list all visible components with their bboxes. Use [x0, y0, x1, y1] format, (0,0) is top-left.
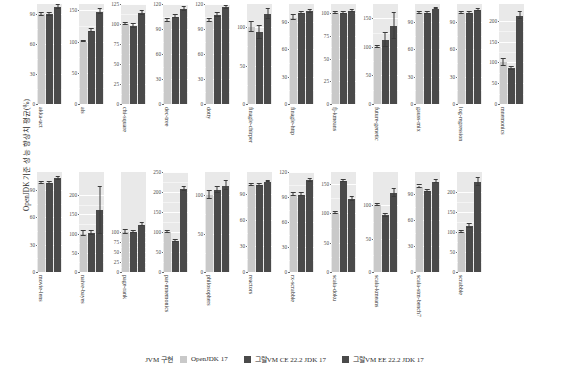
bar-OpenJDK 17[interactable]	[38, 4, 45, 104]
bar-rect	[382, 40, 389, 104]
bar-그랄VM CE 22.2 JDK 17[interactable]	[256, 172, 263, 272]
x-axis-label: log-regression	[440, 107, 482, 165]
bar-그랄VM EE 22.2 JDK 17[interactable]	[432, 4, 439, 104]
bar-그랄VM CE 22.2 JDK 17[interactable]	[298, 172, 305, 272]
bar-OpenJDK 17[interactable]	[80, 172, 87, 272]
x-axis-label-text: akka-uct	[38, 107, 44, 128]
bar-그랄VM CE 22.2 JDK 17[interactable]	[256, 4, 263, 104]
bar-그랄VM CE 22.2 JDK 17[interactable]	[130, 172, 137, 272]
y-axis: 0306090	[272, 4, 289, 104]
bar-그랄VM EE 22.2 JDK 17[interactable]	[96, 4, 103, 104]
bar-그랄VM EE 22.2 JDK 17[interactable]	[54, 4, 61, 104]
bar-그랄VM CE 22.2 JDK 17[interactable]	[340, 172, 347, 272]
bar-그랄VM EE 22.2 JDK 17[interactable]	[474, 4, 481, 104]
x-axis-label: finagle-chirper	[230, 107, 272, 165]
bar-OpenJDK 17[interactable]	[248, 4, 255, 104]
bar-그랄VM EE 22.2 JDK 17[interactable]	[180, 172, 187, 272]
error-bar-cap	[173, 14, 178, 15]
bar-OpenJDK 17[interactable]	[206, 4, 213, 104]
bar-그랄VM CE 22.2 JDK 17[interactable]	[508, 4, 515, 104]
bar-그랄VM CE 22.2 JDK 17[interactable]	[424, 4, 431, 104]
bar-OpenJDK 17[interactable]	[164, 4, 171, 104]
bar-OpenJDK 17[interactable]	[38, 172, 45, 272]
bar-그랄VM CE 22.2 JDK 17[interactable]	[88, 172, 95, 272]
bar-그랄VM EE 22.2 JDK 17[interactable]	[264, 172, 271, 272]
bar-그랄VM EE 22.2 JDK 17[interactable]	[222, 172, 229, 272]
bar-그랄VM CE 22.2 JDK 17[interactable]	[466, 172, 473, 272]
bar-OpenJDK 17[interactable]	[332, 172, 339, 272]
bar-그랄VM EE 22.2 JDK 17[interactable]	[138, 4, 145, 104]
bar-그랄VM CE 22.2 JDK 17[interactable]	[172, 4, 179, 104]
error-bar-cap	[459, 11, 464, 12]
bar-그랄VM EE 22.2 JDK 17[interactable]	[222, 4, 229, 104]
bar-그랄VM EE 22.2 JDK 17[interactable]	[474, 172, 481, 272]
bar-그랄VM EE 22.2 JDK 17[interactable]	[390, 172, 397, 272]
y-tick-label: 100	[195, 192, 203, 198]
bar-rect	[432, 9, 439, 104]
error-bar-cap	[299, 13, 304, 14]
bar-group	[373, 172, 398, 272]
y-tick-label: 50	[198, 231, 203, 237]
facet-par-mnemonics: 050100150200250par-mnemonics	[146, 172, 188, 333]
error-bar-cap	[307, 181, 312, 182]
error-bar-cap	[139, 14, 144, 15]
bar-OpenJDK 17[interactable]	[416, 4, 423, 104]
bar-그랄VM CE 22.2 JDK 17[interactable]	[88, 4, 95, 104]
error-bar-cap	[139, 225, 144, 226]
bar-그랄VM EE 22.2 JDK 17[interactable]	[264, 4, 271, 104]
bar-OpenJDK 17[interactable]	[458, 172, 465, 272]
legend-item-graalvm-ee[interactable]: 그랄VM EE 22.2 JDK 17	[342, 354, 424, 364]
bar-그랄VM EE 22.2 JDK 17[interactable]	[96, 172, 103, 272]
bar-OpenJDK 17[interactable]	[206, 172, 213, 272]
bar-OpenJDK 17[interactable]	[248, 172, 255, 272]
bar-그랄VM EE 22.2 JDK 17[interactable]	[432, 172, 439, 272]
bar-OpenJDK 17[interactable]	[80, 4, 87, 104]
bar-OpenJDK 17[interactable]	[290, 172, 297, 272]
legend-item-openjdk[interactable]: OpenJDK 17	[180, 355, 228, 363]
y-tick-label: 90	[156, 26, 161, 32]
bar-OpenJDK 17[interactable]	[374, 4, 381, 104]
bar-그랄VM EE 22.2 JDK 17[interactable]	[54, 172, 61, 272]
error-bar-cap	[257, 185, 262, 186]
x-axis-label: page-rank	[104, 275, 146, 333]
bar-rect	[306, 11, 313, 104]
bar-그랄VM CE 22.2 JDK 17[interactable]	[382, 4, 389, 104]
bar-OpenJDK 17[interactable]	[122, 172, 129, 272]
bar-그랄VM CE 22.2 JDK 17[interactable]	[46, 4, 53, 104]
plot-area: 050100150200	[482, 4, 524, 104]
bar-그랄VM CE 22.2 JDK 17[interactable]	[340, 4, 347, 104]
bar-그랄VM EE 22.2 JDK 17[interactable]	[348, 4, 355, 104]
bar-그랄VM EE 22.2 JDK 17[interactable]	[348, 172, 355, 272]
plot-area: 050100	[356, 172, 398, 272]
y-axis: 0306090	[20, 172, 37, 272]
bar-OpenJDK 17[interactable]	[416, 172, 423, 272]
bar-그랄VM EE 22.2 JDK 17[interactable]	[516, 4, 523, 104]
bar-OpenJDK 17[interactable]	[164, 172, 171, 272]
bar-그랄VM CE 22.2 JDK 17[interactable]	[298, 4, 305, 104]
bar-그랄VM CE 22.2 JDK 17[interactable]	[46, 172, 53, 272]
legend-item-graalvm-ce[interactable]: 그랄VM CE 22.2 JDK 17	[244, 354, 326, 364]
bar-OpenJDK 17[interactable]	[500, 4, 507, 104]
bar-rect	[206, 195, 213, 272]
facet-movie-lens: 0306090movie-lens	[20, 172, 62, 333]
bar-그랄VM EE 22.2 JDK 17[interactable]	[390, 4, 397, 104]
bar-그랄VM EE 22.2 JDK 17[interactable]	[138, 172, 145, 272]
bar-그랄VM CE 22.2 JDK 17[interactable]	[382, 172, 389, 272]
bar-그랄VM CE 22.2 JDK 17[interactable]	[130, 4, 137, 104]
bar-그랄VM EE 22.2 JDK 17[interactable]	[306, 4, 313, 104]
bar-OpenJDK 17[interactable]	[458, 4, 465, 104]
bar-그랄VM CE 22.2 JDK 17[interactable]	[214, 4, 221, 104]
bar-그랄VM EE 22.2 JDK 17[interactable]	[180, 4, 187, 104]
bar-OpenJDK 17[interactable]	[290, 4, 297, 104]
error-bar-cap	[459, 230, 464, 231]
bar-rect	[130, 26, 137, 104]
facet-als: 050100150als	[62, 4, 104, 165]
bar-그랄VM CE 22.2 JDK 17[interactable]	[466, 4, 473, 104]
bar-OpenJDK 17[interactable]	[332, 4, 339, 104]
bar-OpenJDK 17[interactable]	[374, 172, 381, 272]
bar-그랄VM EE 22.2 JDK 17[interactable]	[306, 172, 313, 272]
bar-그랄VM CE 22.2 JDK 17[interactable]	[214, 172, 221, 272]
bar-OpenJDK 17[interactable]	[122, 4, 129, 104]
bar-그랄VM CE 22.2 JDK 17[interactable]	[172, 172, 179, 272]
bar-그랄VM CE 22.2 JDK 17[interactable]	[424, 172, 431, 272]
